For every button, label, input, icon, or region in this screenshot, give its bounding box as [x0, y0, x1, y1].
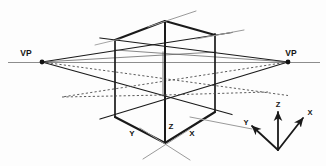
vp-right-label: VP [285, 48, 297, 58]
triad-x-axis [278, 118, 303, 150]
ray-right-to-top-left [100, 38, 288, 62]
vp-right-hidden-rays [62, 62, 288, 97]
axis-triad [252, 112, 303, 150]
axis-label-x: X [189, 129, 195, 138]
vp-right-dot [286, 60, 291, 65]
perspective-diagram: VP VP Y Z X Z X Y [0, 0, 326, 166]
figure-root: VP VP Y Z X Z X Y [0, 0, 326, 166]
guide-through-top-apex [148, 11, 196, 27]
triad-label-y: Y [243, 118, 248, 127]
guide-through-bottom-apex-a [143, 129, 190, 159]
vp-right-rays [100, 38, 288, 119]
ray-right-to-bottom-left [100, 62, 288, 119]
triad-y-axis [252, 126, 278, 150]
vp-left-dot [40, 60, 45, 65]
hidden-edge-back-left-lower [62, 95, 165, 97]
hidden-ray-right-lower [62, 62, 288, 97]
guide-left-top-stub [95, 39, 120, 45]
vp-left-label: VP [20, 48, 32, 58]
axis-label-z: Z [169, 122, 174, 131]
ray-left-thin-upper [42, 52, 216, 62]
triad-label-x: X [307, 108, 312, 117]
vp-left-rays [42, 33, 232, 115]
edge-apex-to-top-right [165, 21, 215, 35]
axis-label-y: Y [129, 129, 135, 138]
ray-left-to-top-right [42, 33, 232, 63]
triad-label-z: Z [276, 100, 281, 109]
